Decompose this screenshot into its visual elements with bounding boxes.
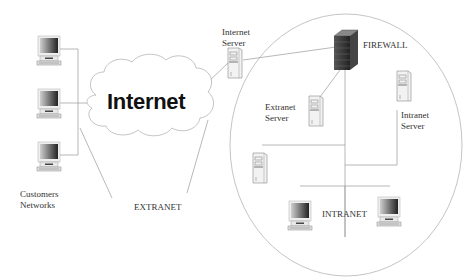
label-line: Server — [222, 38, 250, 49]
internet-server-label: Internet Server — [222, 27, 250, 49]
workstation-icon — [288, 201, 312, 230]
workstation-icon — [37, 142, 61, 171]
label-line: Internet — [222, 27, 250, 38]
internet-cloud-label: Internet — [107, 89, 185, 115]
server-tower-icon — [397, 71, 411, 101]
label-line: Customers — [20, 189, 59, 200]
server-tower-icon — [309, 96, 323, 126]
workstation-icon — [377, 197, 401, 226]
workstation-icon — [37, 89, 61, 118]
extranet-server-label: Extranet Server — [265, 102, 296, 124]
label-line: Extranet — [265, 102, 296, 113]
server-tower-icon — [228, 48, 242, 78]
label-line: Server — [401, 121, 429, 132]
firewall-icon — [334, 30, 358, 70]
intranet-label: INTRANET — [322, 209, 367, 220]
network-diagram: Internet Internet Server FIREWALL Extran… — [0, 0, 471, 279]
label-line: Intranet — [401, 110, 429, 121]
label-line: Server — [265, 113, 296, 124]
intranet-server-label: Intranet Server — [401, 110, 429, 132]
workstation-icon — [37, 36, 61, 65]
server-tower-icon — [253, 153, 267, 183]
firewall-label: FIREWALL — [363, 40, 408, 51]
extranet-label: EXTRANET — [134, 202, 182, 213]
label-line: Networks — [20, 200, 59, 211]
customers-networks-label: Customers Networks — [20, 189, 59, 211]
